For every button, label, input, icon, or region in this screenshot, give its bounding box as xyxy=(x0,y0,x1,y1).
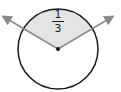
fraction-denominator: 3 xyxy=(50,23,66,34)
sector-fraction-label: 1 3 xyxy=(50,9,66,34)
fraction-numerator: 1 xyxy=(50,9,66,20)
center-dot xyxy=(56,47,60,51)
